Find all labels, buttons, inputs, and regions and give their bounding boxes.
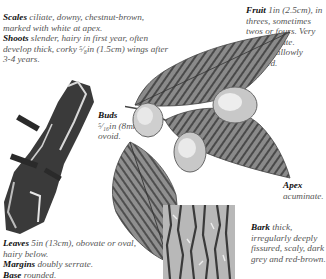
shoots-term: Shoots xyxy=(3,33,29,43)
bark-note: Bark thick, irregularly deeply fissured,… xyxy=(251,222,326,264)
leaf-apex-term: Apex xyxy=(283,180,302,190)
base-text: rounded. xyxy=(21,270,56,279)
leaf-apex-text: acuminate. xyxy=(283,191,324,201)
leaf-apex-note: Apex acuminate. xyxy=(283,180,326,201)
fruit-term: Fruit xyxy=(246,5,266,15)
bark-sample-illustration xyxy=(163,205,235,279)
buds-term: Buds xyxy=(98,110,117,120)
scales-term: Scales xyxy=(3,12,27,22)
margins-term: Margins xyxy=(3,259,35,269)
margins-text: doubly serrate. xyxy=(35,259,93,269)
base-term: Base xyxy=(3,270,21,279)
bark-term: Bark xyxy=(251,222,270,232)
corky-shoot-illustration xyxy=(0,72,100,240)
